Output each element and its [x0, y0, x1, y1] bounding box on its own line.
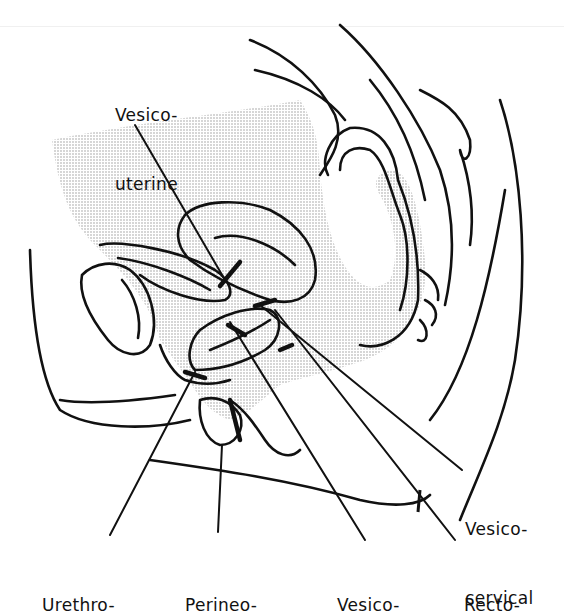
- leader-perineovaginal: [218, 445, 222, 532]
- stippled-tissue: [52, 100, 426, 420]
- gluteal-fold: [150, 460, 430, 505]
- label-urethrovaginal: Urethro- vaginal: [42, 548, 115, 614]
- leader-urethrovaginal: [110, 372, 195, 535]
- label-vesicovaginal: Vesico- vaginal: [337, 548, 401, 614]
- buttock-curve: [460, 100, 522, 520]
- label-vesicouterine: Vesico- uterine: [115, 58, 178, 219]
- label-perineovaginal: Perineo- vaginal: [185, 548, 257, 614]
- coccyx: [420, 90, 472, 245]
- label-rectovaginal: Recto- vaginal: [464, 548, 528, 614]
